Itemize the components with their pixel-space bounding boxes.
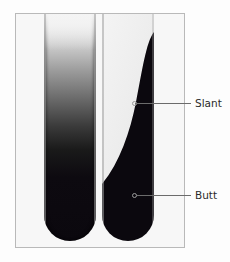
butt-callout-line bbox=[137, 195, 191, 196]
slant-callout-line bbox=[135, 103, 191, 104]
right-test-tube-slant bbox=[102, 13, 154, 241]
tube-glass-edge bbox=[94, 13, 96, 241]
slant-surface bbox=[102, 13, 154, 241]
left-test-tube bbox=[44, 13, 96, 241]
slant-label: Slant bbox=[195, 97, 222, 109]
butt-label: Butt bbox=[195, 189, 217, 201]
photo-frame bbox=[15, 13, 185, 248]
test-tube-figure: Slant Butt bbox=[0, 0, 230, 262]
tube-glass-edge bbox=[44, 13, 46, 241]
